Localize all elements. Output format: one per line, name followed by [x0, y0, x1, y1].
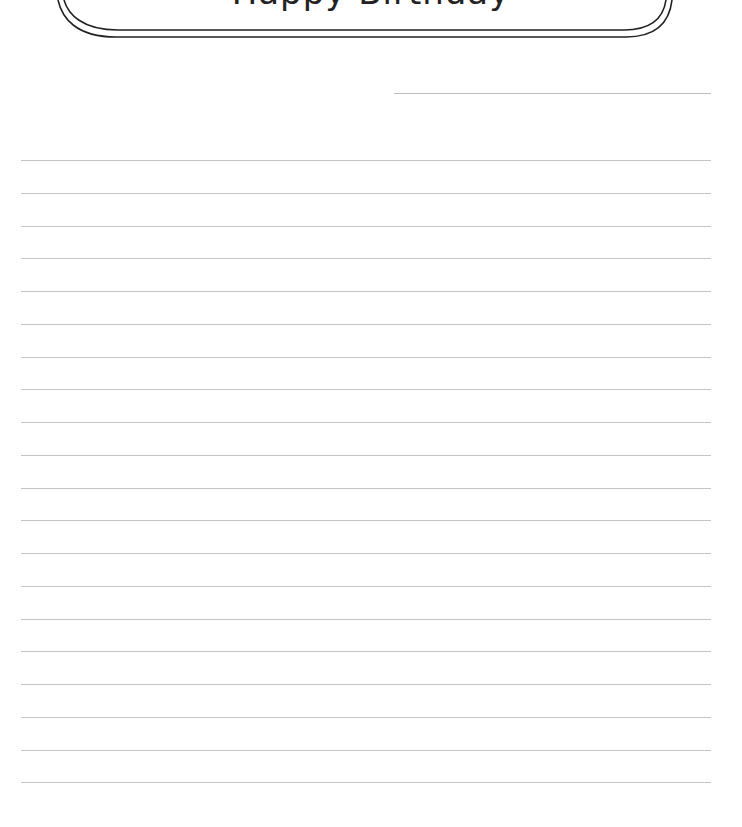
writing-line[interactable] — [21, 258, 711, 259]
banner-frame — [0, 0, 742, 50]
writing-line[interactable] — [21, 651, 711, 652]
writing-line[interactable] — [21, 226, 711, 227]
writing-line[interactable] — [21, 750, 711, 751]
writing-line[interactable] — [21, 291, 711, 292]
writing-line[interactable] — [21, 455, 711, 456]
writing-line[interactable] — [21, 553, 711, 554]
writing-line[interactable] — [21, 717, 711, 718]
writing-line[interactable] — [21, 160, 711, 161]
writing-line[interactable] — [21, 684, 711, 685]
writing-line[interactable] — [21, 389, 711, 390]
writing-line[interactable] — [21, 422, 711, 423]
writing-line[interactable] — [21, 324, 711, 325]
writing-line[interactable] — [21, 619, 711, 620]
writing-line[interactable] — [21, 782, 711, 783]
writing-line[interactable] — [21, 586, 711, 587]
writing-line[interactable] — [21, 488, 711, 489]
writing-line[interactable] — [21, 520, 711, 521]
date-line[interactable] — [394, 93, 711, 94]
writing-line[interactable] — [21, 357, 711, 358]
writing-line[interactable] — [21, 193, 711, 194]
